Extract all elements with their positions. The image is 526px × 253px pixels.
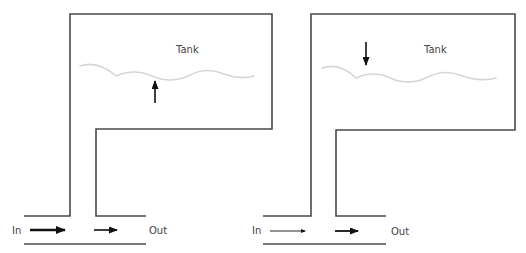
in-label: In: [12, 225, 21, 236]
out-label: Out: [149, 225, 167, 236]
tank-outer-wall: [263, 14, 515, 216]
tank-flow-diagram: Tank In Out Tank In Out: [0, 0, 526, 253]
water-surface: [322, 66, 496, 82]
panel-draining: Tank In Out: [252, 14, 515, 244]
tank-label: Tank: [423, 44, 447, 55]
water-surface: [80, 64, 254, 80]
tank-outer-wall: [24, 14, 272, 216]
out-label: Out: [391, 226, 409, 237]
in-label: In: [252, 225, 261, 236]
tank-label: Tank: [175, 44, 199, 55]
panel-filling: Tank In Out: [12, 14, 272, 244]
